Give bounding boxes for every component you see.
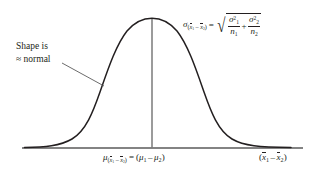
overbar	[277, 152, 280, 153]
axis-variable-label: (x1–x2)	[259, 153, 287, 163]
overbar	[200, 23, 202, 24]
sigma-2-index: 2	[256, 19, 259, 25]
x-bar-2-var: x	[277, 152, 281, 162]
overbar	[110, 156, 112, 157]
mean-label: μ(x1–x2)=(μ1–μ2)	[103, 153, 165, 165]
x-bar-1-var: x	[110, 157, 113, 163]
plus-sign: +	[240, 22, 248, 31]
overbar	[190, 23, 192, 24]
x-bar-2-var: x	[200, 24, 203, 30]
n-2-index: 2	[255, 30, 258, 36]
annotation-leader-line	[62, 63, 104, 86]
sigma-1-index: 1	[236, 19, 239, 25]
x-bar-2: x	[120, 157, 123, 163]
radicand: σ21n1+σ22n2	[226, 13, 261, 37]
shape-annotation-line-2: ≈ normal	[16, 53, 51, 66]
n-1-index: 1	[235, 30, 238, 36]
normal-curve-path	[25, 18, 292, 147]
variance-term-1-denominator: n1	[228, 27, 240, 38]
shape-annotation-line-1: Shape is	[16, 40, 51, 53]
square-root: √σ21n1+σ22n2	[216, 13, 261, 37]
rhs-close-paren: )	[162, 152, 165, 162]
variance-term-2-denominator: n2	[248, 27, 260, 38]
variance-term-2: σ22n2	[248, 15, 260, 37]
variance-term-1: σ21n1	[228, 15, 240, 37]
equals-sign: =	[207, 21, 216, 30]
mu-subscript: (x1–x2)	[108, 157, 127, 163]
x-bar-1-var: x	[190, 24, 193, 30]
x-bar-1: x	[262, 153, 266, 162]
sigma-subscript: (x1–x2)	[187, 24, 206, 30]
minus-sign: –	[269, 153, 277, 162]
x-bar-1-var: x	[262, 152, 266, 162]
equals-sign: =	[127, 153, 136, 162]
shape-annotation: Shape is ≈ normal	[16, 40, 51, 65]
x-bar-2: x	[277, 153, 281, 162]
overbar	[120, 156, 122, 157]
x-bar-1: x	[190, 24, 193, 30]
rhs-minus-sign: –	[147, 153, 155, 162]
x-bar-1: x	[110, 157, 113, 163]
standard-error-formula: σ(x1–x2)=√σ21n1+σ22n2	[183, 13, 261, 37]
radical-symbol: √	[217, 15, 225, 35]
x-bar-2: x	[200, 24, 203, 30]
x-bar-2-var: x	[120, 157, 123, 163]
normal-curve-figure: Shape is ≈ normal σ(x1–x2)=√σ21n1+σ22n2 …	[0, 0, 316, 178]
close-paren: )	[284, 152, 287, 162]
overbar	[262, 152, 265, 153]
